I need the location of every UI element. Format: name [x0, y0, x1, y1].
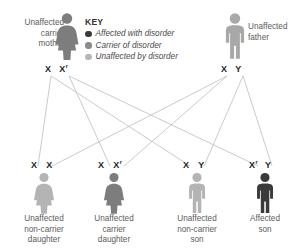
- key-item-affected: Affected with disorder: [85, 28, 210, 40]
- key-item-label: Unaffected by disorder: [96, 52, 178, 61]
- child-3-allele-2: Y: [198, 160, 204, 170]
- child-1-allele-1: X: [31, 160, 37, 170]
- child-1-allele-2: X: [46, 160, 52, 170]
- mother-figure: [52, 12, 82, 60]
- child-4-genotype: Xr Y: [249, 160, 271, 170]
- carrier-dot: [85, 42, 92, 49]
- child-1-figure: [30, 172, 58, 214]
- child-2-figure: [100, 172, 128, 214]
- mother-allele-2-sup: r: [66, 63, 69, 69]
- father-genotype: X Y: [221, 64, 242, 74]
- child-3-genotype: X Y: [183, 160, 205, 170]
- key-item-label: Affected with disorder: [96, 29, 175, 38]
- mother-allele-1: X: [45, 64, 51, 74]
- key-item-carrier: Carrier of disorder: [85, 40, 210, 52]
- key-title: KEY: [85, 17, 210, 27]
- father-label: Unaffected father: [248, 22, 300, 43]
- child-4-allele-2: Y: [265, 160, 271, 170]
- father-figure: [220, 12, 250, 60]
- key-item-unaffected: Unaffected by disorder: [85, 51, 210, 63]
- father-allele-2: Y: [235, 64, 241, 74]
- affected-dot: [85, 31, 92, 38]
- child-4-label: Affected son: [224, 214, 301, 235]
- mother-genotype: X Xr: [45, 64, 68, 74]
- child-4-allele-1-sup: r: [255, 159, 258, 165]
- child-4-figure: [251, 172, 279, 214]
- key-legend: KEY Affected with disorder Carrier of di…: [85, 17, 210, 63]
- child-2-genotype: X Xr: [98, 160, 122, 170]
- key-item-label: Carrier of disorder: [96, 41, 162, 50]
- child-3-allele-1: X: [183, 160, 189, 170]
- unaffected-dot: [85, 54, 92, 61]
- child-2-allele-1: X: [98, 160, 104, 170]
- child-2-label: Unaffected carrier daughter: [73, 214, 155, 246]
- child-2-allele-2-sup: r: [120, 159, 123, 165]
- pedigree-diagram: KEY Affected with disorder Carrier of di…: [0, 0, 301, 251]
- child-1-genotype: X X: [31, 160, 53, 170]
- father-allele-1: X: [221, 64, 227, 74]
- child-3-figure: [183, 172, 211, 214]
